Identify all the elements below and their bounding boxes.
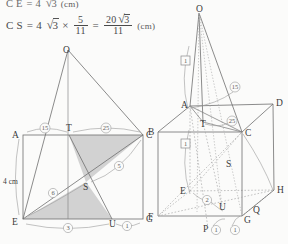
cs-coefficient: 4 bbox=[36, 19, 42, 31]
cs-equals-2: = bbox=[93, 19, 99, 31]
ratio-label-TC-text: 25 bbox=[103, 124, 110, 131]
ratio-label-SC-text: 5 bbox=[117, 162, 120, 169]
ratio-label-r15-text: 15 bbox=[232, 83, 239, 90]
figure-left-rectangle: 15 25 3 1 6 5 4 cm bbox=[0, 36, 152, 244]
ratio-label-r2: 2 bbox=[202, 195, 211, 204]
vertex-label-E: E bbox=[12, 217, 18, 227]
vertex-label-S: S bbox=[83, 182, 88, 192]
ce-coefficient: 4 bbox=[35, 0, 40, 9]
ce-unit: (cm) bbox=[61, 0, 79, 9]
boxed-label-1-upper: 1 bbox=[181, 56, 190, 65]
ce-equals: = bbox=[26, 0, 32, 9]
frac1-numerator: 5 bbox=[74, 15, 88, 25]
cube-visible-edges bbox=[158, 104, 274, 216]
vertex-label-C-right: C bbox=[245, 128, 251, 138]
ratio-label-EU: 3 bbox=[63, 223, 72, 232]
frac2-denominator: 11 bbox=[104, 25, 132, 36]
ratio-label-p1: 1 bbox=[211, 225, 220, 234]
frac2-radicand: 3 bbox=[124, 14, 130, 25]
equation-line-CE: C E = 4 √3 (cm) bbox=[6, 0, 79, 11]
apex-axis-dotted bbox=[197, 13, 199, 212]
ratio-label-EU-text: 3 bbox=[66, 224, 69, 231]
ratio-label-p1-text: 1 bbox=[214, 226, 217, 233]
scanned-math-page: C E = 4 √3 (cm) C S = 4 √3 × 5 11 = 20√3… bbox=[0, 0, 288, 244]
vertex-label-A: A bbox=[12, 130, 19, 140]
line-O-to-E bbox=[23, 50, 68, 219]
vertex-label-E-right: E bbox=[180, 186, 186, 196]
vertex-label-F-right: F bbox=[148, 212, 153, 222]
figure-right-cube: 15 25 2 1 1 1 bbox=[145, 4, 288, 244]
vertex-label-G-right: G bbox=[244, 215, 251, 225]
frac2-num-coef: 20 bbox=[106, 14, 116, 25]
ratio-label-r15: 15 bbox=[230, 82, 240, 92]
vertex-label-S-right: S bbox=[226, 159, 231, 169]
ratio-label-SC: 5 bbox=[114, 161, 123, 170]
ratio-label-r2-text: 2 bbox=[205, 196, 208, 203]
ratio-label-UG-text: 1 bbox=[125, 222, 128, 229]
vertex-label-O-right: O bbox=[196, 4, 203, 14]
cube-hidden-edges bbox=[158, 106, 274, 216]
ratio-label-p2: 1 bbox=[230, 225, 239, 234]
ce-sqrt: √3 bbox=[44, 0, 58, 11]
measure-label-4cm: 4 cm bbox=[3, 177, 18, 186]
frac1-denominator: 11 bbox=[74, 25, 88, 36]
apex-rays bbox=[190, 13, 242, 132]
ratio-label-r25: 25 bbox=[227, 116, 237, 126]
cs-times-sign: × bbox=[62, 19, 68, 31]
ratio-label-ES: 6 bbox=[48, 188, 57, 197]
vertex-label-D-right: D bbox=[276, 98, 283, 108]
ratio-label-r25-text: 25 bbox=[229, 117, 236, 124]
boxed-label-1-lower-text: 1 bbox=[184, 140, 187, 147]
cs-lhs: C S bbox=[6, 19, 24, 31]
vertex-label-H-right: H bbox=[277, 185, 284, 195]
equation-line-CS: C S = 4 √3 × 5 11 = 20√3 11 (cm) bbox=[6, 13, 155, 37]
cs-equals: = bbox=[27, 19, 33, 31]
vertex-label-T-right: T bbox=[200, 119, 206, 129]
ratio-label-p2-text: 1 bbox=[233, 226, 236, 233]
frac2-numerator: 20√3 bbox=[104, 13, 132, 25]
cs-radicand: 3 bbox=[53, 18, 60, 31]
vertex-label-B-right: B bbox=[148, 127, 154, 137]
vertex-label-P-right: P bbox=[203, 224, 208, 234]
line-O-to-C bbox=[68, 50, 143, 135]
vertex-label-T: T bbox=[66, 123, 72, 133]
arc-P2 bbox=[232, 216, 240, 226]
vertex-label-U-right: U bbox=[219, 202, 226, 212]
ce-lhs: C E bbox=[6, 0, 24, 9]
frac2-sqrt: √3 bbox=[116, 13, 130, 25]
ratio-label-TC: 25 bbox=[101, 123, 111, 133]
fraction-five-elevenths: 5 11 bbox=[74, 15, 88, 37]
ratio-label-AT: 15 bbox=[40, 123, 50, 133]
vertex-label-Q-right: Q bbox=[253, 205, 260, 215]
ratio-label-AT-text: 15 bbox=[42, 124, 49, 131]
boxed-label-1-upper-text: 1 bbox=[184, 57, 187, 64]
vertex-label-O: O bbox=[63, 45, 70, 55]
fraction-result: 20√3 11 bbox=[104, 13, 132, 37]
vertex-label-A-right: A bbox=[181, 100, 188, 110]
boxed-label-1-lower: 1 bbox=[181, 139, 190, 148]
ce-radicand: 3 bbox=[52, 0, 58, 9]
vertex-label-U: U bbox=[109, 219, 116, 229]
cs-sqrt: √3 bbox=[45, 18, 60, 33]
ratio-label-UG: 1 bbox=[122, 221, 131, 230]
arc-CH bbox=[243, 134, 273, 190]
arc-P1 bbox=[213, 219, 225, 226]
